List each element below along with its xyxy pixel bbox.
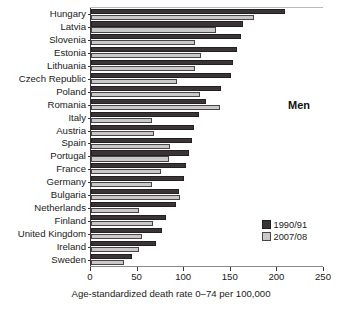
bar-italy-1990-91 [91,112,199,117]
bar-bulgaria-1990-91 [91,189,179,194]
bar-estonia-2007-08 [91,53,201,58]
bar-lithuania-2007-08 [91,66,195,71]
bar-portugal-2007-08 [91,156,169,161]
bar-group-lithuania [91,60,324,73]
bar-group-slovenia [91,34,324,47]
x-tick-label-50: 50 [131,271,142,282]
bar-czech-republic-2007-08 [91,79,177,84]
x-tick-mark [183,267,184,271]
bar-slovenia-1990-91 [91,34,241,39]
sex-annotation: Men [288,99,310,111]
bar-group-austria [91,124,324,137]
y-axis-label-germany: Germany [0,177,86,187]
bar-united-kingdom-1990-91 [91,228,162,233]
bar-spain-1990-91 [91,138,192,143]
bar-group-portugal [91,150,324,163]
bar-portugal-1990-91 [91,150,189,155]
legend-label: 2007/08 [274,232,308,242]
bar-ireland-1990-91 [91,241,156,246]
x-tick-mark [90,267,91,271]
y-axis-label-italy: Italy [0,113,86,123]
bar-germany-1990-91 [91,176,184,181]
bar-group-czech-republic [91,73,324,86]
bar-estonia-1990-91 [91,47,237,52]
bar-group-germany [91,176,324,189]
bar-latvia-1990-91 [91,21,243,26]
bar-group-estonia [91,47,324,60]
bar-hungary-1990-91 [91,9,285,14]
bar-czech-republic-1990-91 [91,73,231,78]
y-axis-label-estonia: Estonia [0,48,86,58]
x-tick-label-100: 100 [175,271,191,282]
bar-finland-2007-08 [91,221,153,226]
bar-poland-1990-91 [91,86,221,91]
y-axis-label-united-kingdom: United Kingdom [0,229,86,239]
x-tick-mark [276,267,277,271]
bar-france-1990-91 [91,163,186,168]
y-axis-label-austria: Austria [0,126,86,136]
bar-group-sweden [91,253,324,266]
x-tick-mark [137,267,138,271]
x-tick-label-150: 150 [222,271,238,282]
legend-label: 1990/91 [274,220,308,230]
bar-poland-2007-08 [91,92,200,97]
y-axis-label-czech-republic: Czech Republic [0,74,86,84]
y-axis-labels: HungaryLatviaSloveniaEstoniaLithuaniaCze… [0,8,86,266]
y-axis-label-lithuania: Lithuania [0,61,86,71]
y-axis-label-poland: Poland [0,87,86,97]
bar-hungary-2007-08 [91,15,254,20]
y-axis-label-ireland: Ireland [0,242,86,252]
legend: 1990/912007/08 [262,219,340,243]
x-tick-label-250: 250 [315,271,331,282]
y-axis-label-sweden: Sweden [0,255,86,265]
y-axis-label-slovenia: Slovenia [0,35,86,45]
y-axis-label-romania: Romania [0,100,86,110]
bar-netherlands-1990-91 [91,202,176,207]
y-axis-label-latvia: Latvia [0,22,86,32]
bar-france-2007-08 [91,169,161,174]
bar-lithuania-1990-91 [91,60,233,65]
bar-group-bulgaria [91,189,324,202]
bar-group-hungary [91,8,324,21]
y-axis-label-portugal: Portugal [0,151,86,161]
legend-item-2007-08: 2007/08 [262,231,340,242]
bar-sweden-1990-91 [91,254,132,259]
legend-item-1990-91: 1990/91 [262,219,340,230]
bar-italy-2007-08 [91,118,152,123]
x-tick-label-0: 0 [87,271,92,282]
bar-group-france [91,163,324,176]
x-tick-mark [230,267,231,271]
bar-slovenia-2007-08 [91,40,195,45]
bar-romania-2007-08 [91,105,220,110]
bar-group-netherlands [91,202,324,215]
y-axis-label-bulgaria: Bulgaria [0,190,86,200]
bar-austria-2007-08 [91,131,154,136]
bar-netherlands-2007-08 [91,208,139,213]
bar-austria-1990-91 [91,125,194,130]
bar-bulgaria-2007-08 [91,195,180,200]
bar-sweden-2007-08 [91,260,124,265]
bar-group-italy [91,111,324,124]
bar-spain-2007-08 [91,144,170,149]
bar-group-poland [91,85,324,98]
bar-romania-1990-91 [91,99,206,104]
bar-group-latvia [91,21,324,34]
y-axis-label-netherlands: Netherlands [0,203,86,213]
bar-group-spain [91,137,324,150]
y-axis-label-finland: Finland [0,216,86,226]
bar-latvia-2007-08 [91,27,216,32]
x-tick-label-200: 200 [268,271,284,282]
bar-finland-1990-91 [91,215,166,220]
y-axis-label-hungary: Hungary [0,9,86,19]
bar-ireland-2007-08 [91,247,139,252]
y-axis-label-spain: Spain [0,138,86,148]
legend-swatch-light [262,232,271,241]
chart-figure: HungaryLatviaSloveniaEstoniaLithuaniaCze… [0,0,342,316]
x-tick-mark [323,267,324,271]
x-axis-title: Age-standardized death rate 0–74 per 100… [0,288,342,299]
x-axis: 050100150200250 [90,267,323,287]
bar-germany-2007-08 [91,182,152,187]
legend-swatch-dark [262,220,271,229]
y-axis-label-france: France [0,164,86,174]
bar-united-kingdom-2007-08 [91,234,142,239]
